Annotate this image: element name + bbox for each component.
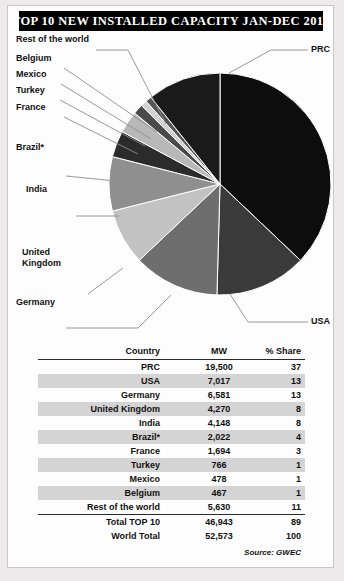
cell-country: USA — [38, 374, 194, 388]
cell-mw: 52,573 — [194, 529, 244, 543]
cell-share: 100 — [244, 529, 305, 543]
table-body: PRC19,50037USA7,01713Germany6,58113Unite… — [38, 360, 305, 544]
pie-label-united-kingdom-line1: United — [22, 247, 50, 258]
header-country: Country — [38, 344, 194, 360]
cell-mw: 2,022 — [194, 430, 244, 444]
report-card: TOP 10 NEW INSTALLED CAPACITY JAN-DEC 20… — [7, 5, 334, 568]
header-share: % Share — [244, 344, 305, 360]
header-mw: MW — [194, 344, 244, 360]
cell-share: 8 — [244, 402, 305, 416]
pie-label-france: France — [16, 102, 46, 113]
cell-mw: 4,148 — [194, 416, 244, 430]
pie-label-rest-of-world: Rest of the world — [16, 34, 89, 45]
cell-country: Germany — [38, 388, 194, 402]
cell-mw: 6,581 — [194, 388, 244, 402]
cell-share: 13 — [244, 388, 305, 402]
cell-mw: 478 — [194, 472, 244, 486]
leader-prc — [229, 50, 308, 73]
cell-mw: 4,270 — [194, 402, 244, 416]
cell-country: PRC — [38, 360, 194, 375]
cell-share: 1 — [244, 486, 305, 500]
cell-country: World Total — [38, 529, 194, 543]
pie-chart-svg — [8, 32, 333, 337]
pie-label-germany: Germany — [16, 297, 55, 308]
table-row: Belgium4671 — [38, 486, 305, 500]
leader-uk — [88, 268, 123, 294]
table-row: PRC19,50037 — [38, 360, 305, 375]
table-header-row: Country MW % Share — [38, 344, 305, 360]
cell-country: Rest of the world — [38, 500, 194, 515]
table-row: Rest of the world5,63011 — [38, 500, 305, 515]
cell-country: India — [38, 416, 194, 430]
cell-share: 3 — [244, 444, 305, 458]
cell-country: Brazil* — [38, 430, 194, 444]
table-row: USA7,01713 — [38, 374, 305, 388]
pie-chart: Rest of the world Belgium Mexico Turkey … — [8, 32, 333, 337]
cell-mw: 766 — [194, 458, 244, 472]
cell-share: 13 — [244, 374, 305, 388]
pie-label-mexico: Mexico — [16, 69, 47, 80]
leader-usa — [230, 294, 308, 322]
cell-mw: 19,500 — [194, 360, 244, 375]
cell-mw: 7,017 — [194, 374, 244, 388]
page-title: TOP 10 NEW INSTALLED CAPACITY JAN-DEC 20… — [19, 11, 323, 31]
leader-belgium — [64, 68, 157, 132]
cell-share: 1 — [244, 472, 305, 486]
pie-label-prc: PRC — [311, 44, 330, 55]
cell-share: 4 — [244, 430, 305, 444]
cell-country: Total TOP 10 — [38, 515, 194, 530]
table-row: Germany6,58113 — [38, 388, 305, 402]
cell-mw: 467 — [194, 486, 244, 500]
source-note: Source: GWEC — [38, 548, 305, 557]
pie-slices — [109, 73, 331, 295]
table-row: Mexico4781 — [38, 472, 305, 486]
pie-label-belgium: Belgium — [16, 53, 52, 64]
table-total-row: Total TOP 1046,94389 — [38, 515, 305, 530]
pie-label-turkey: Turkey — [16, 85, 45, 96]
capacity-table: Country MW % Share PRC19,50037USA7,01713… — [38, 344, 305, 543]
cell-share: 37 — [244, 360, 305, 375]
leader-germany — [66, 295, 171, 328]
cell-country: France — [38, 444, 194, 458]
cell-country: United Kingdom — [38, 402, 194, 416]
pie-label-india: India — [26, 184, 47, 195]
cell-share: 1 — [244, 458, 305, 472]
table-row: India4,1488 — [38, 416, 305, 430]
cell-share: 11 — [244, 500, 305, 515]
table-row: France1,6943 — [38, 444, 305, 458]
table-total-row: World Total52,573100 — [38, 529, 305, 543]
cell-country: Mexico — [38, 472, 194, 486]
pie-label-united-kingdom-line2: Kingdom — [22, 258, 61, 269]
table-row: Turkey7661 — [38, 458, 305, 472]
cell-share: 89 — [244, 515, 305, 530]
pie-label-usa: USA — [311, 316, 330, 327]
cell-mw: 5,630 — [194, 500, 244, 515]
cell-country: Turkey — [38, 458, 194, 472]
capacity-table-wrap: Country MW % Share PRC19,50037USA7,01713… — [38, 344, 305, 557]
cell-country: Belgium — [38, 486, 194, 500]
cell-share: 8 — [244, 416, 305, 430]
pie-label-brazil: Brazil* — [16, 142, 44, 153]
table-row: United Kingdom4,2708 — [38, 402, 305, 416]
cell-mw: 46,943 — [194, 515, 244, 530]
table-header: Country MW % Share — [38, 344, 305, 360]
table-row: Brazil*2,0224 — [38, 430, 305, 444]
cell-mw: 1,694 — [194, 444, 244, 458]
